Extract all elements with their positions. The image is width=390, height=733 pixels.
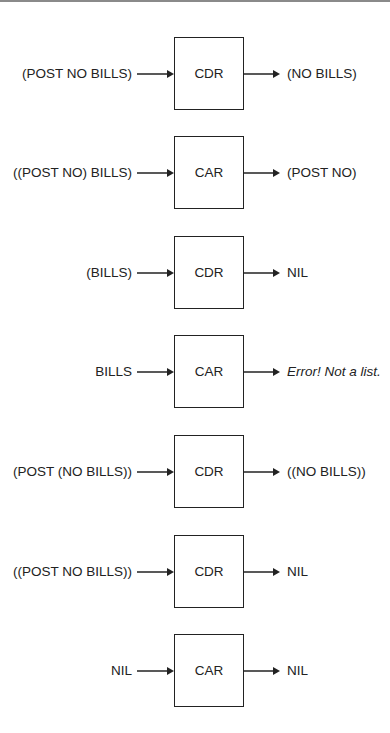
- function-label: CAR: [195, 165, 224, 180]
- output-label: ((NO BILLS)): [287, 463, 366, 481]
- function-label: CDR: [194, 66, 223, 81]
- function-label: CDR: [194, 464, 223, 479]
- function-box: CDR: [174, 236, 244, 309]
- arrow-right-icon: [243, 68, 281, 80]
- diagram-row: (BILLS) CDR NIL: [0, 236, 390, 310]
- arrow-right-icon: [137, 366, 175, 378]
- arrow-right-icon: [243, 167, 281, 179]
- diagram-row: NIL CAR NIL: [0, 634, 390, 708]
- output-label: NIL: [287, 264, 308, 282]
- arrow-right-icon: [243, 665, 281, 677]
- diagram-row: BILLS CAR Error! Not a list.: [0, 335, 390, 409]
- function-box: CAR: [174, 634, 244, 707]
- arrow-right-icon: [137, 466, 175, 478]
- arrow-right-icon: [137, 167, 175, 179]
- input-label: (POST (NO BILLS)): [13, 463, 132, 481]
- output-label: NIL: [287, 563, 308, 581]
- output-label: (NO BILLS): [287, 65, 357, 83]
- input-label: ((POST NO) BILLS): [13, 164, 132, 182]
- input-label: (POST NO BILLS): [22, 65, 132, 83]
- input-label: (BILLS): [86, 264, 132, 282]
- input-label: BILLS: [95, 363, 132, 381]
- function-box: CDR: [174, 37, 244, 110]
- output-label: NIL: [287, 662, 308, 680]
- input-label: ((POST NO BILLS)): [13, 563, 132, 581]
- arrow-right-icon: [137, 665, 175, 677]
- diagram-row: (POST NO BILLS) CDR (NO BILLS): [0, 37, 390, 111]
- arrow-right-icon: [243, 466, 281, 478]
- function-label: CDR: [194, 564, 223, 579]
- arrow-right-icon: [137, 566, 175, 578]
- arrow-right-icon: [137, 267, 175, 279]
- top-border-rule: [0, 0, 390, 2]
- error-output-label: Error! Not a list.: [287, 363, 381, 381]
- input-label: NIL: [111, 662, 132, 680]
- diagram-row: ((POST NO) BILLS) CAR (POST NO): [0, 136, 390, 210]
- function-label: CAR: [195, 663, 224, 678]
- function-box: CDR: [174, 535, 244, 608]
- function-label: CAR: [195, 364, 224, 379]
- function-box: CAR: [174, 136, 244, 209]
- arrow-right-icon: [243, 366, 281, 378]
- diagram-row: (POST (NO BILLS)) CDR ((NO BILLS)): [0, 435, 390, 509]
- function-box: CDR: [174, 435, 244, 508]
- diagram-row: ((POST NO BILLS)) CDR NIL: [0, 535, 390, 609]
- arrow-right-icon: [243, 267, 281, 279]
- function-box: CAR: [174, 335, 244, 408]
- output-label: (POST NO): [287, 164, 357, 182]
- arrow-right-icon: [243, 566, 281, 578]
- arrow-right-icon: [137, 68, 175, 80]
- function-label: CDR: [194, 265, 223, 280]
